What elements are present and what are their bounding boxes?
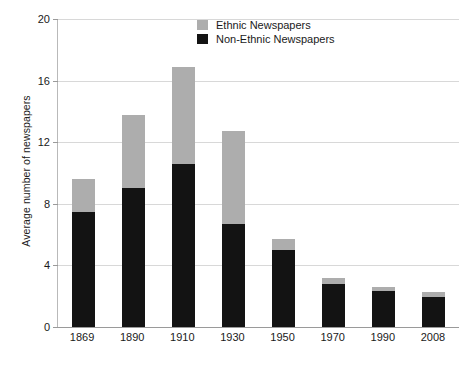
x-tick-label-1990: 1990 — [371, 331, 395, 343]
x-tick-label-1930: 1930 — [220, 331, 244, 343]
y-tick-label: 16 — [22, 75, 50, 87]
y-tick-label: 0 — [22, 321, 50, 333]
bar-segment-non-ethnic[interactable] — [72, 212, 95, 328]
y-tick-label: 4 — [22, 259, 50, 271]
gridline-0 — [58, 327, 459, 328]
legend-item[interactable]: Non-Ethnic Newspapers — [197, 32, 335, 45]
bar-segment-non-ethnic[interactable] — [422, 297, 445, 327]
bar-segment-ethnic[interactable] — [222, 131, 245, 223]
bar-1869[interactable] — [72, 179, 95, 327]
x-tick-label-1950: 1950 — [270, 331, 294, 343]
bar-2008[interactable] — [422, 292, 445, 327]
x-tick-label-1910: 1910 — [170, 331, 194, 343]
stacked-bar-chart: Average number of newspapers 048121620 1… — [0, 0, 470, 366]
bar-segment-non-ethnic[interactable] — [272, 250, 295, 327]
bar-1890[interactable] — [122, 114, 145, 327]
bar-segment-ethnic[interactable] — [272, 239, 295, 250]
legend-swatch-icon — [197, 34, 208, 44]
y-tick-label: 8 — [22, 198, 50, 210]
y-axis-tick-labels: 048121620 — [22, 0, 50, 366]
x-tick-label-1970: 1970 — [320, 331, 344, 343]
bar-segment-non-ethnic[interactable] — [122, 188, 145, 327]
x-axis-tick-labels: 18691890191019301950197019902008 — [57, 331, 458, 351]
legend-label: Non-Ethnic Newspapers — [216, 33, 335, 45]
y-tick-label: 12 — [22, 136, 50, 148]
bar-1910[interactable] — [172, 67, 195, 327]
bar-segment-ethnic[interactable] — [122, 115, 145, 189]
x-tick-label-1890: 1890 — [120, 331, 144, 343]
bar-1970[interactable] — [322, 278, 345, 327]
bar-segment-non-ethnic[interactable] — [222, 224, 245, 327]
bar-1930[interactable] — [222, 131, 245, 327]
bar-segment-non-ethnic[interactable] — [172, 164, 195, 327]
bar-1990[interactable] — [372, 287, 395, 327]
chart-legend: Ethnic NewspapersNon-Ethnic Newspapers — [197, 18, 335, 46]
legend-item[interactable]: Ethnic Newspapers — [197, 18, 335, 31]
bar-segment-non-ethnic[interactable] — [372, 291, 395, 327]
plot-area — [57, 19, 459, 327]
x-tick-label-2008: 2008 — [421, 331, 445, 343]
bar-segment-non-ethnic[interactable] — [322, 284, 345, 327]
legend-label: Ethnic Newspapers — [216, 19, 311, 31]
y-tick-label: 20 — [22, 13, 50, 25]
bars-layer — [58, 19, 459, 327]
x-tick-label-1869: 1869 — [70, 331, 94, 343]
bar-1950[interactable] — [272, 239, 295, 327]
bar-segment-ethnic[interactable] — [172, 67, 195, 164]
legend-swatch-icon — [197, 20, 208, 30]
bar-segment-ethnic[interactable] — [72, 179, 95, 211]
y-tickmark-0 — [53, 327, 58, 328]
